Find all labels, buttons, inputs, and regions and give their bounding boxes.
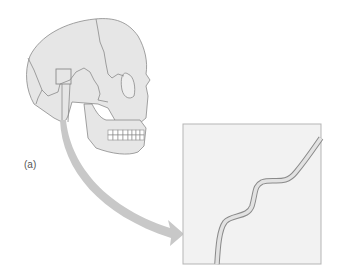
skull-suture-diagram [0,0,353,276]
suture-inset [183,124,321,264]
panel-label: (a) [24,159,36,170]
teeth [108,130,144,140]
skull-illustration [27,19,150,155]
